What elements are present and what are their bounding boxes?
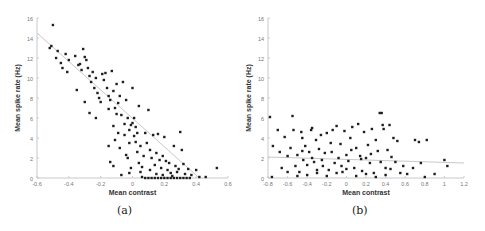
data-point — [117, 132, 119, 134]
data-point — [185, 177, 187, 179]
data-point — [300, 131, 302, 133]
data-point — [160, 177, 162, 179]
data-point — [375, 176, 377, 178]
data-point — [134, 126, 136, 128]
data-point — [170, 172, 172, 174]
scatter-chart-a: 0246810121416-0.6-0.4-0.200.20.40.6Mean … — [0, 0, 242, 200]
data-point — [154, 177, 156, 179]
data-point — [64, 53, 66, 55]
data-point — [424, 176, 426, 178]
data-point — [328, 169, 330, 171]
data-point — [384, 167, 386, 169]
data-point — [286, 155, 288, 157]
data-point — [154, 164, 156, 166]
data-point — [350, 149, 352, 151]
data-point — [179, 177, 181, 179]
data-point — [141, 166, 143, 168]
data-point — [347, 160, 349, 162]
y-tick-label: 16 — [27, 16, 33, 22]
data-point — [390, 156, 392, 158]
data-point — [123, 123, 125, 125]
data-point — [190, 174, 192, 176]
data-point — [301, 150, 303, 152]
data-point — [158, 159, 160, 161]
data-point — [136, 132, 138, 134]
x-tick-label: 0 — [345, 181, 348, 187]
data-point — [166, 169, 168, 171]
data-point — [296, 175, 298, 177]
data-point — [82, 48, 84, 50]
data-point — [365, 157, 367, 159]
data-point — [95, 77, 97, 79]
data-point — [127, 157, 129, 159]
panel-label-a: (a) — [117, 204, 132, 217]
data-point — [370, 153, 372, 155]
x-tick-label: 0.6 — [401, 181, 409, 187]
data-point — [55, 57, 57, 59]
data-point — [103, 79, 105, 81]
data-point — [361, 170, 363, 172]
data-point — [131, 122, 133, 124]
data-point — [141, 176, 143, 178]
data-point — [106, 87, 108, 89]
data-point — [173, 145, 175, 147]
data-point — [115, 113, 117, 115]
data-point — [291, 115, 293, 117]
y-tick-label: 12 — [27, 56, 33, 62]
regression-line — [37, 33, 199, 178]
data-point — [128, 142, 130, 144]
data-point — [138, 162, 140, 164]
data-point — [418, 141, 420, 143]
data-point — [369, 162, 371, 164]
data-point — [377, 150, 379, 152]
data-point — [380, 112, 382, 114]
data-point — [294, 165, 296, 167]
data-point — [162, 174, 164, 176]
data-point — [187, 168, 189, 170]
data-point — [85, 59, 87, 61]
x-axis-label: Mean contrast — [342, 189, 390, 196]
data-point — [119, 147, 121, 149]
data-point — [333, 162, 335, 164]
x-tick-label: 0.2 — [161, 181, 169, 187]
data-point — [367, 144, 369, 146]
data-point — [127, 117, 129, 119]
data-point — [114, 107, 116, 109]
data-point — [359, 155, 361, 157]
data-point — [316, 169, 318, 171]
data-point — [52, 24, 54, 26]
data-point — [84, 56, 86, 58]
data-point — [133, 117, 135, 119]
data-point — [216, 167, 218, 169]
x-tick-label: -0.4 — [302, 181, 311, 187]
data-point — [50, 45, 52, 47]
data-point — [123, 134, 125, 136]
data-point — [373, 172, 375, 174]
data-point — [279, 151, 281, 153]
data-point — [155, 152, 157, 154]
data-point — [165, 160, 167, 162]
data-point — [130, 167, 132, 169]
data-point — [92, 71, 94, 73]
data-point — [93, 87, 95, 89]
data-point — [371, 128, 373, 130]
data-point — [99, 101, 101, 103]
data-point — [316, 172, 318, 174]
data-point — [176, 171, 178, 173]
data-point — [321, 159, 323, 161]
data-point — [88, 112, 90, 114]
x-axis-label: Mean contrast — [109, 189, 157, 196]
data-point — [66, 71, 68, 73]
y-tick-label: 4 — [261, 136, 264, 142]
data-point — [313, 161, 315, 163]
y-tick-label: 16 — [258, 16, 264, 22]
y-axis-label: Mean spike rate (Hz) — [245, 64, 253, 132]
x-tick-label: -0.6 — [283, 181, 292, 187]
data-point — [298, 171, 300, 173]
x-tick-label: -0.2 — [96, 181, 105, 187]
data-point — [119, 95, 121, 97]
data-point — [112, 125, 114, 127]
data-point — [326, 175, 328, 177]
x-tick-label: -0.4 — [64, 181, 73, 187]
data-point — [181, 149, 183, 151]
